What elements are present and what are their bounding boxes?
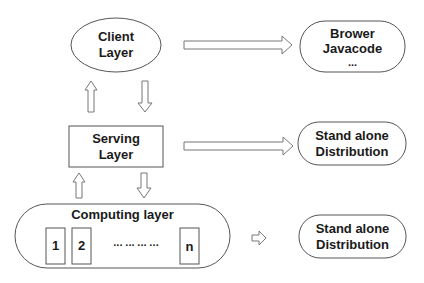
client-layer-line1: Client — [98, 29, 134, 45]
distribution-serving-line1: Stand alone — [315, 128, 389, 144]
client-layer-label: Client Layer — [71, 27, 161, 63]
arrow-right-serving-to-distribution — [184, 137, 293, 155]
client-layer-line2: Layer — [99, 45, 134, 61]
distribution-computing-line2: Distribution — [316, 237, 389, 253]
distribution-computing-line1: Stand alone — [316, 221, 390, 237]
compute-node-2-label: 2 — [72, 238, 91, 254]
browser-line2: Javacode — [323, 41, 382, 56]
arrow-right-client-to-browser — [184, 36, 292, 54]
computing-layer-title: Computing layer — [15, 207, 230, 223]
arrow-down-serving-to-computing — [137, 173, 151, 198]
serving-layer-line1: Serving — [92, 131, 140, 147]
compute-node-n-label: n — [180, 239, 199, 255]
browser-line3: ... — [348, 56, 357, 68]
serving-layer-line2: Layer — [99, 147, 134, 163]
arrow-up-computing-to-serving — [73, 173, 85, 198]
distribution-serving-line2: Distribution — [316, 144, 389, 160]
compute-node-1-label: 1 — [46, 238, 65, 254]
standalone-distribution-label-computing: Stand alone Distribution — [299, 219, 406, 255]
compute-nodes-ellipsis: ··· ··· ··· ··· — [96, 237, 176, 253]
serving-layer-label: Serving Layer — [69, 128, 163, 166]
browser-javacode-label: Brower Javacode ... — [300, 22, 405, 72]
standalone-distribution-label-serving: Stand alone Distribution — [298, 126, 406, 162]
arrow-down-client-to-serving — [138, 81, 152, 112]
arrow-up-serving-to-client — [85, 81, 97, 112]
browser-line1: Brower — [330, 26, 375, 41]
arrow-right-computing-to-distribution — [252, 231, 266, 245]
